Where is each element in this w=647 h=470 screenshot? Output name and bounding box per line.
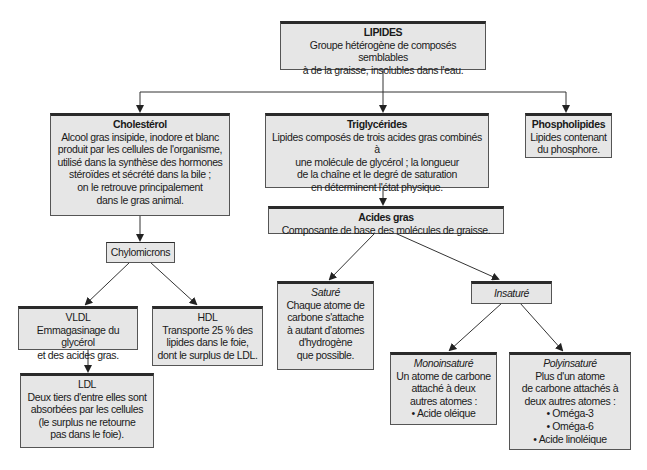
phospholipides-desc: Lipides contenant du phosphore. [529, 131, 608, 156]
polyinsature-title: Polyinsaturé [513, 357, 627, 370]
monoinsature-desc: Un atome de carbone attaché à deux autre… [394, 370, 493, 420]
acides-gras-title: Acides gras [272, 211, 500, 224]
cholesterol-box: Cholestérol Alcool gras insipide, inodor… [50, 113, 230, 216]
lipides-desc: Groupe hétérogène de composés semblables… [284, 39, 482, 77]
vldl-title: VLDL [22, 311, 134, 324]
hdl-desc: Transporte 25 % des lipides dans le foie… [156, 324, 259, 362]
chylomicrons-box: Chylomicrons [106, 242, 175, 263]
triglycerides-desc: Lipides composés de trois acides gras co… [269, 131, 485, 194]
lipides-title: LIPIDES [284, 26, 482, 39]
monoinsature-title: Monoinsaturé [394, 357, 493, 370]
ldl-box: LDL Deux tiers d'entre elles sont absorb… [20, 373, 154, 448]
insature-title: Insaturé [475, 287, 548, 300]
insature-box: Insaturé [471, 281, 552, 304]
phospholipides-box: Phospholipides Lipides contenant du phos… [525, 113, 612, 158]
triglycerides-title: Triglycérides [269, 118, 485, 131]
vldl-box: VLDL Emmagasinage du glycérol et des aci… [18, 306, 138, 350]
triglycerides-box: Triglycérides Lipides composés de trois … [265, 113, 489, 188]
ldl-title: LDL [24, 378, 150, 391]
monoinsature-box: Monoinsaturé Un atome de carbone attaché… [390, 352, 497, 425]
chylomicrons-title: Chylomicrons [110, 246, 171, 259]
sature-title: Saturé [281, 286, 370, 299]
ldl-desc: Deux tiers d'entre elles sont absorbées … [24, 391, 150, 441]
lipides-box: LIPIDES Groupe hétérogène de composés se… [280, 21, 486, 70]
cholesterol-desc: Alcool gras insipide, inodore et blanc p… [54, 131, 226, 207]
phospholipides-title: Phospholipides [529, 118, 608, 131]
acides-gras-desc: Composante de base des molécules de grai… [272, 224, 500, 237]
sature-desc: Chaque atome de carbone s'attache à auta… [281, 299, 370, 362]
sature-box: Saturé Chaque atome de carbone s'attache… [277, 281, 374, 370]
vldl-desc: Emmagasinage du glycérol et des acides g… [22, 324, 134, 362]
acides-gras-box: Acides gras Composante de base des moléc… [268, 206, 504, 234]
hdl-box: HDL Transporte 25 % des lipides dans le … [152, 306, 263, 366]
hdl-title: HDL [156, 311, 259, 324]
polyinsature-box: Polyinsaturé Plus d'un atome de carbone … [509, 352, 631, 450]
cholesterol-title: Cholestérol [54, 118, 226, 131]
polyinsature-desc: Plus d'un atome de carbone attachés à de… [513, 370, 627, 446]
